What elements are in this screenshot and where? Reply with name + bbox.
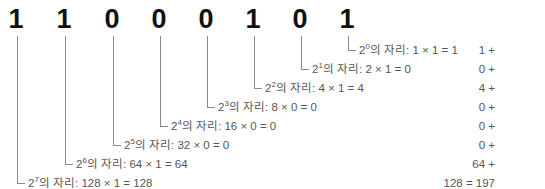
place-value-label-5: 25의 자리: 32 × 0 = 0	[124, 138, 229, 152]
sum-term-3: 0 +	[479, 100, 495, 114]
place-value-label-1: 21의 자리: 2 × 1 = 0	[312, 62, 411, 76]
sum-term-2: 4 +	[479, 81, 495, 95]
sum-total: 128 = 197	[444, 176, 495, 189]
place-value-label-6: 26의 자리: 64 × 1 = 64	[76, 157, 188, 171]
sum-term-5: 0 +	[479, 138, 495, 152]
connector-line-2	[254, 36, 255, 88]
place-value-label-0: 20의 자리: 1 × 1 = 1	[359, 43, 458, 57]
connector-tick-0	[348, 50, 356, 51]
connector-tick-5	[113, 145, 121, 146]
place-value-label-3: 23의 자리: 8 × 0 = 0	[218, 100, 317, 114]
binary-digit-6: 1	[54, 4, 74, 34]
sum-term-0: 1 +	[479, 43, 495, 57]
binary-digit-4: 0	[149, 4, 169, 34]
connector-tick-4	[160, 126, 168, 127]
binary-digit-7: 1	[6, 4, 26, 34]
connector-line-1	[301, 36, 302, 69]
connector-line-7	[17, 36, 18, 183]
sum-term-6: 64 +	[472, 157, 495, 171]
binary-digit-0: 1	[337, 4, 357, 34]
binary-digit-1: 0	[290, 4, 310, 34]
connector-line-4	[160, 36, 161, 126]
binary-digit-2: 1	[243, 4, 263, 34]
connector-tick-1	[301, 69, 309, 70]
connector-line-3	[207, 36, 208, 107]
connector-line-6	[65, 36, 66, 164]
sum-term-1: 0 +	[479, 62, 495, 76]
connector-line-5	[113, 36, 114, 145]
place-value-label-7: 27의 자리: 128 × 1 = 128	[28, 176, 152, 189]
place-value-label-4: 24의 자리: 16 × 0 = 0	[171, 119, 276, 133]
sum-term-4: 0 +	[479, 119, 495, 133]
connector-tick-2	[254, 88, 262, 89]
connector-tick-6	[65, 164, 73, 165]
connector-tick-7	[17, 183, 25, 184]
connector-line-0	[348, 36, 349, 50]
place-value-label-2: 22의 자리: 4 × 1 = 4	[265, 81, 364, 95]
binary-digit-5: 0	[102, 4, 122, 34]
binary-digit-3: 0	[196, 4, 216, 34]
connector-tick-3	[207, 107, 215, 108]
